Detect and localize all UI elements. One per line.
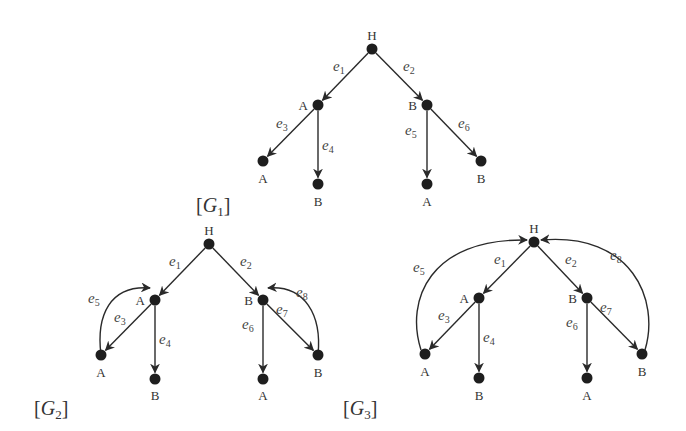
node-label: H	[204, 223, 213, 238]
edge-label-subscript: 2	[410, 65, 415, 76]
node-b1-icon	[422, 100, 433, 111]
edge-e2	[376, 53, 423, 100]
edge-label-subscript: 7	[607, 306, 612, 317]
edge-label-e1: e1	[494, 251, 506, 269]
graph-g3: e1e2e3e4e5e6e7e8HABABAB[G3]	[343, 221, 649, 422]
node-b2-icon	[150, 374, 161, 385]
edge-label-e4: e4	[159, 331, 171, 349]
node-a2-icon	[258, 156, 269, 167]
edge-label-subscript: 5	[95, 297, 100, 308]
edge-label-e4: e4	[322, 137, 334, 155]
edge-label-subscript: 4	[166, 338, 171, 349]
edge-label-e2: e2	[240, 253, 252, 271]
edge-e5	[417, 240, 527, 350]
node-label: H	[367, 28, 376, 43]
edge-label-e8: e8	[296, 284, 308, 302]
edge-label-subscript: 8	[303, 291, 308, 302]
edge-e8	[541, 239, 649, 350]
edge-label-e8: e8	[610, 247, 622, 265]
edge-label-e1: e1	[169, 253, 181, 271]
edge-label-e5: e5	[413, 259, 425, 277]
node-a1-icon	[474, 293, 485, 304]
node-a1-icon	[150, 295, 161, 306]
edge-label-subscript: 6	[573, 321, 578, 332]
graph-g2: e1e2e3e4e5e6e7e8HABABAB[G2]	[34, 223, 324, 422]
edge-e8	[268, 288, 319, 355]
edge-e2	[538, 246, 583, 293]
node-b3-icon	[476, 156, 487, 167]
edge-label-e6: e6	[242, 316, 254, 334]
graphs-root: e1e2e3e4e5e6HABABAB[G1]e1e2e3e4e5e6e7e8H…	[34, 28, 649, 422]
node-a3-icon	[422, 179, 433, 190]
node-b1-icon	[582, 293, 593, 304]
edge-label-e1: e1	[333, 58, 345, 76]
node-b1-icon	[258, 295, 269, 306]
edge-label-e6: e6	[566, 314, 578, 332]
graph-g1: e1e2e3e4e5e6HABABAB[G1]	[196, 28, 487, 219]
node-label: B	[568, 291, 577, 306]
edge-e1	[160, 248, 206, 295]
edge-label-subscript: 1	[340, 65, 345, 76]
node-label: B	[244, 293, 253, 308]
edge-label-e5: e5	[88, 290, 100, 308]
edge-label-subscript: 5	[420, 266, 425, 277]
node-label: A	[258, 171, 268, 186]
edge-label-subscript: 3	[121, 316, 126, 327]
edge-label-e2: e2	[403, 58, 415, 76]
edge-label-subscript: 6	[249, 323, 254, 334]
edge-label-subscript: 2	[572, 258, 577, 269]
node-a2-icon	[420, 349, 431, 360]
edge-label-subscript: 8	[617, 254, 622, 265]
node-b3-icon	[637, 349, 648, 360]
node-a2-icon	[96, 350, 107, 361]
node-label: B	[475, 388, 484, 403]
edge-label-e2: e2	[565, 251, 577, 269]
node-b3-icon	[313, 350, 324, 361]
edge-label-subscript: 1	[501, 258, 506, 269]
node-a3-icon	[258, 374, 269, 385]
node-h-icon	[529, 237, 540, 248]
node-label: B	[477, 171, 486, 186]
edge-label-subscript: 4	[329, 144, 334, 155]
edge-label-subscript: 4	[490, 336, 495, 347]
node-label: B	[151, 388, 160, 403]
edge-label-e5: e5	[405, 122, 417, 140]
node-label: H	[529, 221, 538, 236]
edge-label-e3: e3	[114, 309, 126, 327]
edge-label-e4: e4	[483, 329, 495, 347]
edge-label-subscript: 5	[412, 129, 417, 140]
edge-label-subscript: 3	[283, 122, 288, 133]
edge-e2	[213, 248, 259, 295]
node-label: A	[582, 388, 592, 403]
node-h-icon	[204, 239, 215, 250]
node-a3-icon	[582, 373, 593, 384]
edge-e1	[323, 53, 369, 100]
edge-label-e6: e6	[458, 115, 470, 133]
edge-e7	[267, 304, 314, 351]
edge-label-subscript: 7	[283, 308, 288, 319]
node-a1-icon	[313, 100, 324, 111]
edge-label-e3: e3	[276, 115, 288, 133]
node-label: A	[96, 365, 106, 380]
edge-label-e7: e7	[600, 299, 612, 317]
node-b2-icon	[313, 179, 324, 190]
node-label: B	[638, 364, 647, 379]
node-label: B	[408, 98, 417, 113]
node-label: B	[314, 365, 323, 380]
edge-label-e3: e3	[438, 307, 450, 325]
graph-title-g3: [G3]	[343, 397, 377, 422]
node-label: A	[136, 293, 146, 308]
edge-e1	[484, 246, 531, 293]
node-label: A	[422, 194, 432, 209]
graph-title-g2: [G2]	[34, 397, 68, 422]
node-label: A	[258, 388, 268, 403]
edge-label-e7: e7	[276, 301, 288, 319]
edge-label-subscript: 3	[445, 314, 450, 325]
graph-diagram: e1e2e3e4e5e6HABABAB[G1]e1e2e3e4e5e6e7e8H…	[0, 0, 686, 431]
node-label: A	[420, 364, 430, 379]
node-b2-icon	[474, 373, 485, 384]
edge-e7	[591, 302, 638, 349]
graph-title-g1: [G1]	[196, 194, 230, 219]
node-label: B	[314, 194, 323, 209]
node-label: A	[460, 291, 470, 306]
